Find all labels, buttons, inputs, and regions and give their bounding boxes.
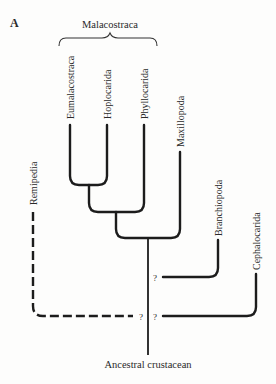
taxon-label-phyllocarida: Phyllocarida <box>139 68 150 119</box>
group-brace <box>59 33 157 46</box>
uncertain-marker-cephalocarida: ? <box>153 312 157 322</box>
branch-remipedia <box>33 212 133 316</box>
taxon-label-remipedia: Remipedia <box>28 161 39 205</box>
taxon-label-hoplocarida: Hoplocarida <box>102 69 113 119</box>
branch-branchiopoda <box>163 240 218 277</box>
group-label-malacostraca: Malacostraca <box>82 19 138 30</box>
taxon-label-cephalocarida: Cephalocarida <box>251 212 262 270</box>
taxon-label-maxillopoda: Maxillopoda <box>175 95 186 147</box>
panel-label: A <box>10 16 19 30</box>
branch-phyllocarida-join <box>89 125 144 212</box>
branch-cephalocarida <box>163 274 256 316</box>
branch-maxillopoda-join <box>116 152 180 238</box>
uncertain-marker-branchiopoda: ? <box>153 273 157 283</box>
uncertain-marker-remipedia: ? <box>139 312 143 322</box>
root-label: Ancestral crustacean <box>104 359 192 370</box>
cladogram-svg: A Malacostraca Eumalacostraca Hoplocarid… <box>0 0 276 384</box>
taxon-label-branchiopoda: Branchiopoda <box>213 179 224 236</box>
branch-eumalacostraca-hoplocarida <box>70 125 107 185</box>
cladogram-figure: A Malacostraca Eumalacostraca Hoplocarid… <box>0 0 276 384</box>
taxon-label-eumalacostraca: Eumalacostraca <box>65 55 76 119</box>
